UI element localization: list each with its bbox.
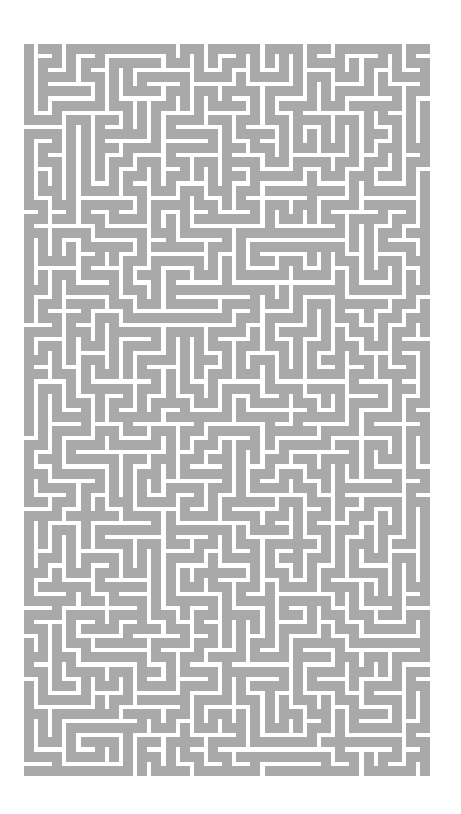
maze-canvas[interactable] xyxy=(0,0,461,814)
